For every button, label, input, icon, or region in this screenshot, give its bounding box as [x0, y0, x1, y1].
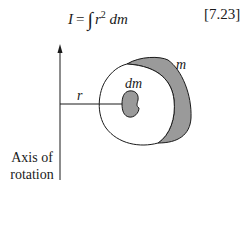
label-m: m — [176, 57, 186, 73]
label-r: r — [77, 88, 82, 104]
axis-caption-line2: rotation — [8, 166, 56, 183]
mass-element-dm — [122, 91, 139, 117]
axis-caption-line1: Axis of — [8, 149, 56, 166]
label-dm: dm — [125, 76, 142, 92]
arrow-up-icon — [58, 44, 63, 53]
axis-of-rotation-caption: Axis of rotation — [8, 149, 56, 183]
